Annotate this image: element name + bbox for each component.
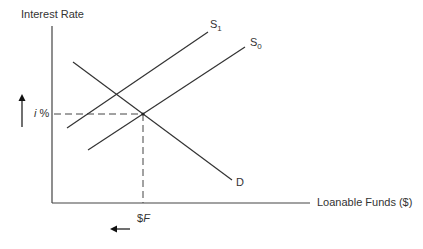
x-axis-label: Loanable Funds ($): [317, 196, 412, 208]
d-name: D: [236, 176, 244, 188]
demand-label: D: [236, 176, 244, 188]
rate-percent: %: [36, 107, 49, 119]
s1-subscript: 1: [217, 24, 221, 33]
quantity-symbol: F: [143, 212, 150, 224]
supply-s0-label: S0: [250, 36, 262, 48]
supply-s1-label: S1: [210, 18, 222, 30]
equilibrium-rate-label: i %: [34, 107, 49, 119]
supply-curve-s0: [88, 47, 245, 150]
interest-rate-up-arrow-icon: [19, 94, 26, 127]
y-axis-label: Interest Rate: [21, 8, 84, 20]
equilibrium-quantity-label: $F: [137, 212, 150, 224]
loanable-funds-left-arrow-icon: [110, 226, 130, 233]
loanable-funds-diagram: [0, 0, 423, 249]
s0-subscript: 0: [257, 42, 261, 51]
equilibrium-point: [141, 112, 144, 115]
demand-curve: [73, 62, 232, 180]
